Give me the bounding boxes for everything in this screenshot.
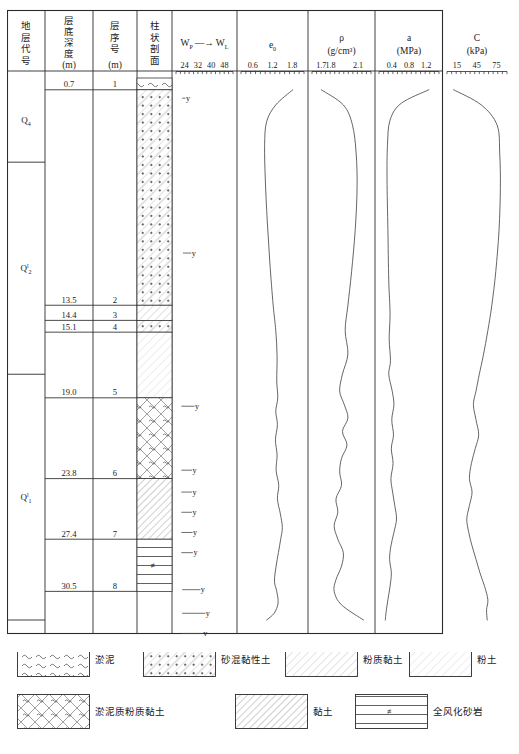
layer-number: 3 (113, 310, 117, 320)
layer-rows: 0.7113.5214.4315.1419.0523.8627.4730.58≢ (45, 78, 172, 591)
borehole-log-svg: 地层代号层底深度(m)层序号(m)柱状剖面WP —→ WLe0ρ(g/cm³)a… (7, 8, 512, 636)
strat-code-column: Q4Ql2Ql1 (7, 115, 45, 620)
layer-number: 7 (113, 529, 118, 539)
header-layer-no: 层 (110, 21, 120, 31)
lithology-legend: 淤泥砂混黏性土粉质黏土粉土淤泥质粉质黏土黏土≢全风化砂岩 (7, 652, 512, 748)
header-C: C (474, 33, 480, 43)
wp-wl-marker: у (186, 94, 191, 103)
axis-tick-label: 45 (473, 61, 481, 70)
curve-rho (321, 90, 363, 620)
header-layer-no: 序 (110, 32, 120, 43)
header-wp-wl: WP —→ WL (181, 38, 229, 50)
legend-label: 淤泥质粉质黏土 (95, 706, 165, 717)
legend-swatch (18, 695, 90, 729)
lithology-block (137, 320, 172, 332)
curve-C (454, 90, 501, 620)
lithology-block (137, 479, 172, 540)
header-profile: 面 (150, 56, 160, 66)
test-curves (265, 90, 501, 620)
header-layer-depth: 层 (64, 16, 74, 26)
legend-swatch (18, 652, 90, 677)
legend-item: 淤泥质粉质黏土 (18, 695, 166, 729)
legend-label: 全风化砂岩 (433, 706, 483, 717)
header-profile: 状 (150, 32, 160, 43)
wp-wl-marker: у (193, 488, 198, 497)
layer-number: 6 (113, 468, 118, 478)
axis-tick-label: 1.2 (421, 61, 431, 70)
layer-depth-value: 13.5 (61, 295, 76, 305)
header-layer-depth: 深 (64, 38, 74, 48)
wp-wl-marker: у (192, 249, 197, 258)
axis-tick-label: 15 (453, 61, 461, 70)
header-rho-unit: (g/cm³) (327, 46, 355, 57)
legend-label: 砂混黏性土 (221, 654, 271, 665)
layer-depth-value: 27.4 (61, 529, 77, 539)
legend-label: 黏土 (313, 706, 333, 717)
header-profile: 柱 (150, 20, 160, 31)
wp-wl-marker: у (201, 585, 206, 594)
legend-item: 黏土 (236, 695, 334, 729)
axis-tick-label: 0.4 (387, 61, 397, 70)
header-strat-code: 号 (21, 56, 31, 66)
lithology-block (137, 305, 172, 320)
axis-tick-label: 1.8 (325, 61, 335, 70)
strat-code-label: Q4 (21, 115, 31, 127)
wp-wl-marker: у (193, 548, 198, 557)
axis-tick-label: 1.2 (267, 61, 277, 70)
lithology-block (137, 78, 172, 90)
wp-wl-marker: у (206, 609, 211, 618)
layer-number: 5 (113, 387, 117, 397)
header-C-unit: (kPa) (467, 46, 488, 57)
borehole-log-table: 地层代号层底深度(m)层序号(m)柱状剖面WP —→ WLe0ρ(g/cm³)a… (7, 8, 512, 636)
layer-depth-value: 14.4 (61, 310, 77, 320)
lithology-block (137, 398, 172, 479)
legend-swatch (410, 652, 472, 677)
header-a-unit: (MPa) (397, 46, 421, 57)
legend-swatch (144, 652, 216, 677)
axis-tick-label: 24 (181, 61, 189, 70)
wp-wl-marker: у (193, 508, 198, 517)
axis-tick-label: 75 (492, 61, 500, 70)
axis-tick-label: 48 (220, 61, 228, 70)
header-strat-code: 地 (21, 20, 31, 31)
axis-tick-label: 32 (194, 61, 202, 70)
legend-item: 粉土 (410, 652, 498, 677)
layer-number: 4 (113, 322, 118, 332)
header-strat-code: 代 (21, 44, 31, 54)
lithology-block (137, 90, 172, 305)
legend-swatch (236, 695, 308, 729)
legend-swatch (286, 652, 358, 677)
layer-depth-value: 0.7 (64, 79, 75, 89)
header-layer-no: 号 (110, 44, 120, 54)
layer-depth-value: 23.8 (61, 468, 76, 478)
weathered-rock-symbol: ≢ (151, 561, 159, 570)
curve-a (385, 90, 429, 620)
header-layer-depth: 底 (64, 26, 74, 37)
strat-code-label: Ql1 (20, 492, 31, 505)
axis-tick-label: 1.8 (287, 61, 297, 70)
wp-wl-bars: ууууууууууууууууу (179, 94, 215, 636)
legend-item: 砂混黏性土 (144, 652, 272, 677)
header-layer-depth: 度 (64, 48, 74, 59)
axis-tick-label: 2.1 (353, 61, 363, 70)
legend-item: 淤泥 (18, 652, 116, 677)
legend-label: 淤泥 (95, 654, 115, 665)
wp-wl-marker: у (203, 629, 208, 636)
lithology-block (137, 332, 172, 398)
layer-depth-value: 30.5 (61, 581, 76, 591)
axis-tick-label: 0.8 (404, 61, 414, 70)
layer-depth-value: 15.1 (61, 322, 76, 332)
header-strat-code: 层 (21, 33, 31, 43)
wp-wl-marker: у (195, 402, 200, 411)
header-layer-no-unit: (m) (108, 60, 122, 71)
layer-number: 1 (113, 79, 117, 89)
layer-number: 8 (113, 581, 117, 591)
strat-code-label: Ql2 (20, 263, 31, 276)
wp-wl-marker: у (193, 466, 198, 475)
header-layer-depth-unit: (m) (62, 60, 76, 71)
legend-svg: 淤泥砂混黏性土粉质黏土粉土淤泥质粉质黏土黏土≢全风化砂岩 (7, 652, 512, 748)
legend-label: 粉土 (477, 654, 497, 665)
header-profile: 剖 (150, 43, 160, 54)
legend-weathered-symbol: ≢ (387, 707, 395, 716)
curve-e0 (265, 90, 293, 620)
